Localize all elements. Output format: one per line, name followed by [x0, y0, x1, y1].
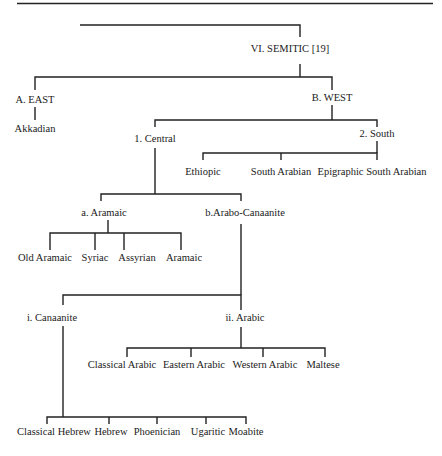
node-akkadian: Akkadian	[15, 123, 57, 134]
node-south: 2. South	[359, 128, 395, 139]
tree-nodes: VI. SEMITIC [19] A. EAST Akkadian B. WES…	[15, 43, 428, 437]
language-family-tree: VI. SEMITIC [19] A. EAST Akkadian B. WES…	[0, 0, 442, 456]
edge-south-split	[203, 153, 377, 160]
node-maltese: Maltese	[306, 359, 340, 370]
node-syriac: Syriac	[82, 252, 109, 263]
edge-central-split	[101, 194, 241, 201]
node-semitic: VI. SEMITIC [19]	[251, 43, 329, 54]
node-arabo-canaanite: b.Arabo-Canaanite	[205, 207, 285, 218]
node-old-aramaic: Old Aramaic	[18, 252, 72, 263]
node-classical-hebrew: Classical Hebrew	[17, 426, 91, 437]
node-aramaic: Aramaic	[166, 252, 202, 263]
node-arabic: ii. Arabic	[225, 312, 264, 323]
node-phoenician: Phoenician	[134, 426, 181, 437]
node-canaanite: i. Canaanite	[27, 312, 77, 323]
edge-semitic-split	[35, 77, 332, 90]
edge-aramaic-split	[50, 233, 181, 250]
node-ugaritic: Ugaritic	[191, 426, 226, 437]
node-ethiopic: Ethiopic	[185, 166, 221, 177]
node-epigraphic-south-arabian: Epigraphic South Arabian	[317, 166, 427, 177]
edge-west-split	[155, 120, 377, 127]
node-classical-arabic: Classical Arabic	[88, 359, 157, 370]
node-east: A. EAST	[15, 94, 55, 105]
edge-arabo-canaanite-split	[63, 295, 241, 310]
node-western-arabic: Western Arabic	[233, 359, 298, 370]
node-moabite: Moabite	[229, 426, 264, 437]
node-assyrian: Assyrian	[118, 252, 156, 263]
edge-root-semitic	[80, 25, 300, 37]
node-hebrew: Hebrew	[94, 426, 128, 437]
edge-arabic-split	[127, 348, 325, 357]
node-aramaic-group: a. Aramaic	[81, 207, 127, 218]
node-eastern-arabic: Eastern Arabic	[163, 359, 225, 370]
node-central: 1. Central	[134, 133, 175, 144]
edge-canaanite-split	[47, 417, 246, 424]
node-south-arabian: South Arabian	[251, 166, 312, 177]
node-west: B. WEST	[312, 92, 353, 103]
